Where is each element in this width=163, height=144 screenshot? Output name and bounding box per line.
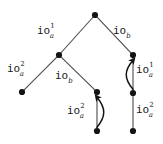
label-subscript: b (126, 32, 130, 40)
node-root (92, 12, 98, 18)
node-right-mid (130, 90, 136, 96)
label-base: io (136, 103, 149, 116)
curved-arrow-mid-up (97, 97, 104, 127)
label-io-a-2-mid-bottom: io2a (67, 104, 89, 119)
label-subscript: a (149, 71, 153, 79)
label-superscript: 2 (20, 60, 24, 68)
tree-diagram: io1aiobio2aiobio2aio1aio2a (0, 0, 163, 144)
label-io-a-2-right-bottom: io2a (136, 103, 158, 118)
label-subscript: a (149, 111, 153, 119)
label-subscript: b (68, 77, 72, 85)
label-superscript: 2 (149, 101, 153, 109)
label-subscript: a (50, 32, 54, 40)
curved-arrow-right-up (126, 60, 133, 89)
node-left-leaf (19, 89, 25, 95)
label-base: io (113, 24, 126, 37)
node-mid (94, 89, 100, 95)
label-base: io (136, 63, 149, 76)
label-io-a-2-left: io2a (7, 62, 29, 77)
label-base: io (37, 24, 50, 37)
node-right-bottom (130, 128, 136, 134)
node-mid-bottom (94, 128, 100, 134)
label-base: io (7, 62, 20, 75)
node-right (130, 52, 136, 58)
label-io-b-middle: iob (55, 70, 73, 84)
label-io-b-top-right: iob (113, 25, 131, 39)
label-superscript: 1 (50, 22, 54, 30)
label-base: io (67, 104, 80, 117)
label-subscript: a (20, 70, 24, 78)
label-base: io (55, 69, 68, 82)
label-superscript: 2 (80, 102, 84, 110)
label-io-a-1-right: io1a (136, 63, 158, 78)
label-io-a-1-top-left: io1a (37, 24, 59, 39)
label-subscript: a (80, 112, 84, 120)
label-superscript: 1 (149, 61, 153, 69)
node-left (56, 52, 62, 58)
edge-root-left (61, 17, 93, 53)
